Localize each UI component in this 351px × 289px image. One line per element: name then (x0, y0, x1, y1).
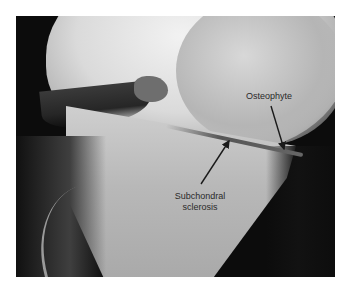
subchondral-sclerosis-label: Subchondral sclerosis (174, 191, 226, 213)
sclerosis-arrow (201, 141, 229, 184)
annotation-arrows (16, 16, 335, 277)
xray-image: Osteophyte Subchondral sclerosis (16, 16, 335, 277)
osteophyte-label: Osteophyte (244, 91, 294, 102)
subchondral-label-line: Subchondral (174, 191, 226, 202)
osteophyte-arrow (271, 106, 284, 149)
sclerosis-label-line: sclerosis (174, 202, 226, 213)
